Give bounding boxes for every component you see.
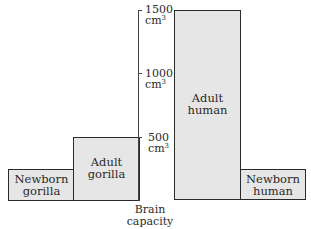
bar-label: Adult human xyxy=(188,92,228,116)
tick-unit: cm xyxy=(148,142,165,155)
tick-500 xyxy=(138,137,142,138)
bar-adult-human: Adult human xyxy=(174,10,241,200)
tick-unit-exponent: 3 xyxy=(162,14,166,22)
tick-1500 xyxy=(138,10,142,11)
tick-label-1000: 1000 cm3 xyxy=(144,68,174,90)
tick-unit-exponent: 3 xyxy=(165,142,169,150)
y-axis-line xyxy=(138,10,139,201)
tick-unit: cm xyxy=(145,78,162,91)
tick-label-500: 500 cm3 xyxy=(147,132,170,154)
bar-label: Newborn gorilla xyxy=(15,173,69,197)
bar-newborn-gorilla: Newborn gorilla xyxy=(8,169,75,201)
tick-label-1500: 1500 cm3 xyxy=(144,4,174,26)
bar-newborn-human: Newborn human xyxy=(240,169,306,200)
tick-1000 xyxy=(138,73,142,74)
bar-adult-gorilla: Adult gorilla xyxy=(73,137,140,201)
bar-label: Newborn human xyxy=(246,173,300,197)
x-axis-label: Brain capacity xyxy=(125,204,175,228)
tick-unit-exponent: 3 xyxy=(162,78,166,86)
bar-label: Adult gorilla xyxy=(88,156,126,180)
tick-unit: cm xyxy=(145,14,162,27)
